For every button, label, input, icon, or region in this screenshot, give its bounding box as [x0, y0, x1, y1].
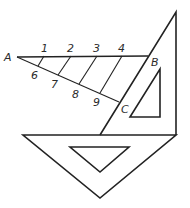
- label-7: 7: [51, 78, 58, 91]
- label-9: 9: [93, 96, 100, 109]
- set-square-division-diagram: A B C 1 2 3 4 6 7 8 9: [0, 0, 190, 208]
- label-8: 8: [72, 88, 79, 101]
- base-set-square-cutout: [70, 147, 129, 172]
- parallel-line-2-7: [58, 56, 71, 75]
- label-C: C: [121, 103, 129, 116]
- parallel-line-3-8: [79, 56, 97, 84]
- label-4: 4: [118, 42, 125, 55]
- line-AB: [17, 56, 148, 57]
- label-1: 1: [41, 42, 48, 55]
- label-B: B: [151, 56, 159, 69]
- upright-set-square-cutout: [130, 69, 160, 117]
- label-6: 6: [31, 69, 38, 82]
- base-set-square: [23, 135, 176, 198]
- base-set-square-outer: [23, 135, 176, 198]
- top-division-labels: 1 2 3 4: [41, 42, 125, 55]
- label-2: 2: [67, 42, 74, 55]
- label-A: A: [3, 51, 12, 64]
- label-3: 3: [93, 42, 100, 55]
- parallel-line-4-9: [100, 56, 122, 93]
